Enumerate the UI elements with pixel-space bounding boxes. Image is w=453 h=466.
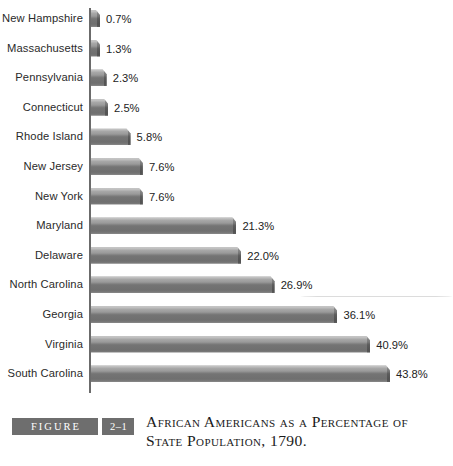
category-label: Rhode Island <box>16 128 83 145</box>
bar-row: Virginia40.9% <box>0 336 453 366</box>
bar <box>91 99 108 116</box>
bar <box>91 40 100 57</box>
bar-rows: New Hampshire0.7%Massachusetts1.3%Pennsy… <box>0 10 453 395</box>
bar-value-label: 2.3% <box>113 69 139 87</box>
category-label: Pennsylvania <box>15 69 83 86</box>
bar <box>91 336 370 353</box>
bar-row: Connecticut2.5% <box>0 99 453 129</box>
bar-fill <box>91 365 390 382</box>
bar <box>91 365 390 382</box>
bar <box>91 128 131 145</box>
bar-value-label: 26.9% <box>281 276 313 294</box>
bar-value-label: 1.3% <box>106 40 132 58</box>
bar-row: Rhode Island5.8% <box>0 128 453 158</box>
bar-value-label: 7.6% <box>149 188 175 206</box>
bar-row: South Carolina43.8% <box>0 365 453 395</box>
bar-chart: New Hampshire0.7%Massachusetts1.3%Pennsy… <box>0 0 453 400</box>
bar-value-label: 36.1% <box>343 306 375 324</box>
bar-fill <box>91 69 107 86</box>
category-label: Virginia <box>45 336 83 353</box>
caption-text: African Americans as a Percentage of Sta… <box>146 412 446 450</box>
bar <box>91 158 143 175</box>
bar-row: New Hampshire0.7% <box>0 10 453 40</box>
bar-fill <box>91 99 108 116</box>
bar-fill <box>91 128 131 145</box>
category-label: Maryland <box>36 217 83 234</box>
bar <box>91 306 337 323</box>
bar <box>91 276 275 293</box>
category-label: Connecticut <box>23 99 83 116</box>
category-label: New Jersey <box>24 158 83 175</box>
bar-value-label: 7.6% <box>149 158 175 176</box>
bar <box>91 217 236 234</box>
bar-row: Georgia36.1% <box>0 306 453 336</box>
bar-value-label: 0.7% <box>106 10 132 28</box>
bar-row: Delaware22.0% <box>0 247 453 277</box>
bar-fill <box>91 306 337 323</box>
figure-word-box: FIGURE <box>12 418 98 435</box>
bar-fill <box>91 217 236 234</box>
caption-line-2: State Population, 1790. <box>146 432 307 449</box>
category-label: Massachusetts <box>7 40 83 57</box>
bar-value-label: 40.9% <box>376 336 408 354</box>
bar-value-label: 22.0% <box>247 247 279 265</box>
figure-number-box: 2–1 <box>102 418 134 435</box>
figure-caption: FIGURE 2–1 African Americans as a Percen… <box>0 404 453 466</box>
bar-fill <box>91 276 275 293</box>
bar-fill <box>91 158 143 175</box>
category-label: New York <box>35 188 83 205</box>
bar-row: Pennsylvania2.3% <box>0 69 453 99</box>
bar-fill <box>91 188 143 205</box>
bar-value-label: 21.3% <box>242 217 274 235</box>
bar <box>91 10 100 27</box>
bar-value-label: 2.5% <box>114 99 140 117</box>
bar-fill <box>91 10 100 27</box>
category-label: New Hampshire <box>2 10 83 27</box>
bar <box>91 69 107 86</box>
bar-row: New York7.6% <box>0 188 453 218</box>
bar-value-label: 43.8% <box>396 365 428 383</box>
category-label: Delaware <box>35 247 83 264</box>
bar-row: North Carolina26.9% <box>0 276 453 306</box>
bar-row: New Jersey7.6% <box>0 158 453 188</box>
category-label: South Carolina <box>8 365 83 382</box>
category-label: North Carolina <box>9 276 83 293</box>
bar-row: Maryland21.3% <box>0 217 453 247</box>
bar-value-label: 5.8% <box>137 128 163 146</box>
category-label: Georgia <box>42 306 83 323</box>
bar-fill <box>91 336 370 353</box>
bar-fill <box>91 40 100 57</box>
bar <box>91 188 143 205</box>
bar-fill <box>91 247 241 264</box>
bar <box>91 247 241 264</box>
bar-row: Massachusetts1.3% <box>0 40 453 70</box>
caption-line-1: African Americans as a Percentage of <box>146 413 408 430</box>
